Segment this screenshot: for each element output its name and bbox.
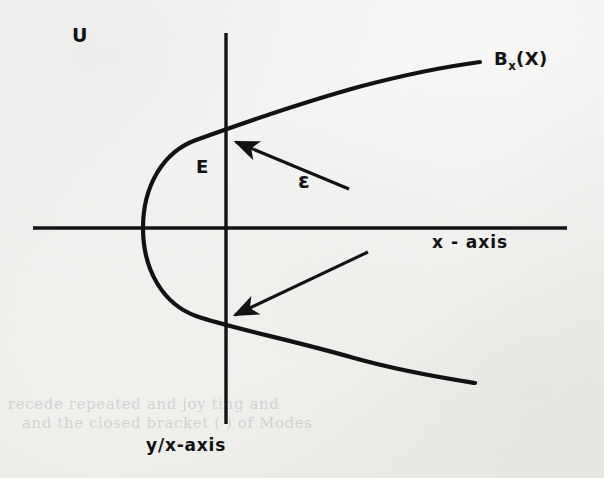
- figure-container: recede repeated and joy ting and and the…: [0, 0, 604, 478]
- curve-label-argument: (X): [516, 48, 548, 69]
- curve-upper-branch: [143, 62, 480, 228]
- energy-level-label: E: [196, 158, 209, 176]
- curve-lower-branch: [143, 228, 475, 383]
- curve-label: Bx(X): [494, 50, 548, 72]
- epsilon-label: ε: [298, 171, 310, 192]
- y-axis-label: y/x-axis: [146, 437, 226, 454]
- curve-label-subscript: x: [508, 59, 516, 73]
- x-axis-label: x - axis: [432, 234, 508, 251]
- epsilon-leader-arrow-upper: [236, 142, 349, 189]
- curve-label-base: B: [494, 48, 508, 69]
- axis-label-potential: U: [72, 26, 88, 45]
- epsilon-leader-arrow-lower: [235, 252, 368, 315]
